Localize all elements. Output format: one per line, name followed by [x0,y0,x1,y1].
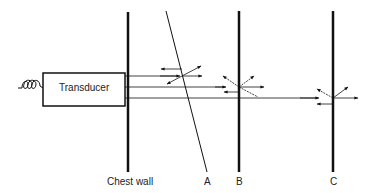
interface-c-label: C [330,176,337,187]
coil-cable-icon [18,80,43,88]
chest-wall-label: Chest wall [107,176,153,187]
beam-to-b [125,76,264,97]
ultrasound-reflection-diagram [0,0,376,193]
beam-to-a [125,66,202,84]
interface-a-label: A [204,176,211,187]
interface-b-label: B [236,176,243,187]
interface-a-line [166,11,207,172]
beam-to-c [125,87,358,104]
transducer-label: Transducer [59,82,109,93]
